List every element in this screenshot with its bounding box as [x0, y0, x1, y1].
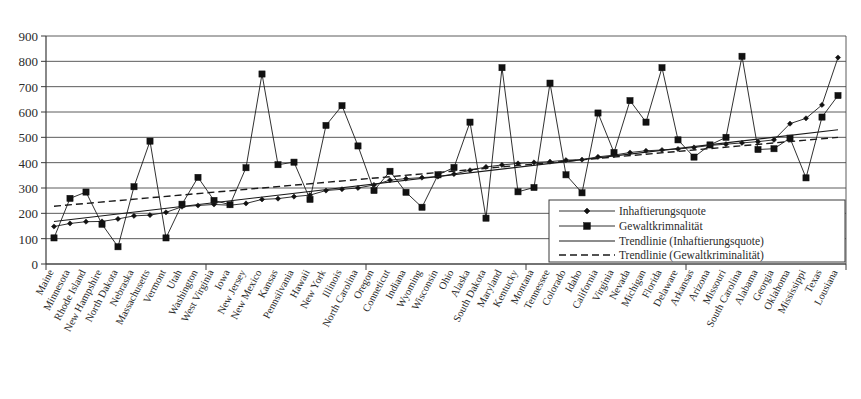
- data-point-gewaltkriminalitaet: [723, 134, 729, 140]
- data-point-gewaltkriminalitaet: [243, 165, 249, 171]
- data-point-gewaltkriminalitaet: [563, 172, 569, 178]
- data-point-gewaltkriminalitaet: [291, 159, 297, 165]
- data-point-gewaltkriminalitaet: [627, 98, 633, 104]
- data-point-gewaltkriminalitaet: [755, 146, 761, 152]
- data-point-inhaftierungsquote: [115, 216, 120, 221]
- data-point-gewaltkriminalitaet: [531, 184, 537, 190]
- data-point-gewaltkriminalitaet: [643, 119, 649, 125]
- data-point-inhaftierungsquote: [419, 175, 424, 180]
- data-point-gewaltkriminalitaet: [835, 92, 841, 98]
- y-axis-tick-label: 0: [32, 257, 39, 272]
- y-axis-tick-label: 300: [19, 181, 39, 196]
- data-point-gewaltkriminalitaet: [819, 114, 825, 120]
- data-point-gewaltkriminalitaet: [547, 80, 553, 86]
- chart-container: 0100200300400500600700800900MaineMinneso…: [0, 0, 861, 399]
- data-point-gewaltkriminalitaet: [163, 235, 169, 241]
- data-point-gewaltkriminalitaet: [451, 164, 457, 170]
- legend-label: Gewaltkrimnalität: [619, 220, 703, 232]
- data-point-gewaltkriminalitaet: [323, 122, 329, 128]
- data-point-gewaltkriminalitaet: [67, 195, 73, 201]
- data-point-inhaftierungsquote: [195, 203, 200, 208]
- y-axis-tick-label: 200: [19, 206, 39, 221]
- y-axis-tick-label: 800: [19, 54, 39, 69]
- data-point-gewaltkriminalitaet: [371, 187, 377, 193]
- legend-label: Inhaftierungsquote: [619, 205, 706, 218]
- x-axis-labels: MaineMinnesotaRhode IslandNew HampshireN…: [33, 267, 839, 333]
- data-point-gewaltkriminalitaet: [275, 162, 281, 168]
- data-point-inhaftierungsquote: [275, 196, 280, 201]
- data-point-gewaltkriminalitaet: [467, 119, 473, 125]
- data-point-gewaltkriminalitaet: [595, 110, 601, 116]
- data-point-inhaftierungsquote: [51, 224, 56, 229]
- data-point-gewaltkriminalitaet: [771, 146, 777, 152]
- data-point-inhaftierungsquote: [243, 201, 248, 206]
- data-point-gewaltkriminalitaet: [499, 65, 505, 71]
- data-point-gewaltkriminalitaet: [227, 202, 233, 208]
- data-point-inhaftierungsquote: [131, 213, 136, 218]
- data-point-gewaltkriminalitaet: [659, 65, 665, 71]
- data-point-gewaltkriminalitaet: [195, 174, 201, 180]
- data-point-gewaltkriminalitaet: [115, 244, 121, 250]
- data-point-inhaftierungsquote: [67, 221, 72, 226]
- data-point-gewaltkriminalitaet: [579, 190, 585, 196]
- data-point-gewaltkriminalitaet: [51, 235, 57, 241]
- data-point-inhaftierungsquote: [531, 160, 536, 165]
- data-point-inhaftierungsquote: [835, 55, 840, 60]
- data-point-gewaltkriminalitaet: [339, 103, 345, 109]
- legend-label: Trendlinie (Inhaftierungsquote): [619, 235, 764, 248]
- data-point-gewaltkriminalitaet: [83, 189, 89, 195]
- y-axis-tick-label: 100: [19, 232, 39, 247]
- data-point-inhaftierungsquote: [163, 210, 168, 215]
- data-point-gewaltkriminalitaet: [691, 154, 697, 160]
- data-point-gewaltkriminalitaet: [307, 196, 313, 202]
- data-point-gewaltkriminalitaet: [515, 189, 521, 195]
- data-point-gewaltkriminalitaet: [355, 143, 361, 149]
- data-point-gewaltkriminalitaet: [387, 168, 393, 174]
- legend-marker-square-icon: [584, 223, 591, 230]
- chart-legend: InhaftierungsquoteGewaltkrimnalitätTrend…: [549, 200, 845, 262]
- data-point-inhaftierungsquote: [323, 188, 328, 193]
- y-axis-tick-label: 400: [19, 156, 39, 171]
- data-point-gewaltkriminalitaet: [611, 149, 617, 155]
- data-point-inhaftierungsquote: [291, 194, 296, 199]
- data-point-gewaltkriminalitaet: [99, 221, 105, 227]
- data-point-gewaltkriminalitaet: [483, 215, 489, 221]
- line-chart: 0100200300400500600700800900MaineMinneso…: [0, 0, 861, 399]
- data-point-gewaltkriminalitaet: [803, 175, 809, 181]
- legend-label: Trendlinie (Gewaltkriminalität): [619, 249, 764, 262]
- data-point-gewaltkriminalitaet: [131, 184, 137, 190]
- data-point-gewaltkriminalitaet: [675, 137, 681, 143]
- trendline-gewaltkriminalitaet: [54, 137, 838, 206]
- y-axis-tick-label: 500: [19, 130, 39, 145]
- y-axis-tick-label: 700: [19, 80, 39, 95]
- data-point-gewaltkriminalitaet: [739, 53, 745, 59]
- data-point-inhaftierungsquote: [83, 219, 88, 224]
- data-point-gewaltkriminalitaet: [403, 189, 409, 195]
- y-axis-tick-label: 600: [19, 105, 39, 120]
- data-point-gewaltkriminalitaet: [259, 71, 265, 77]
- data-point-gewaltkriminalitaet: [147, 138, 153, 144]
- y-axis-tick-label: 900: [19, 29, 39, 44]
- data-point-gewaltkriminalitaet: [419, 204, 425, 210]
